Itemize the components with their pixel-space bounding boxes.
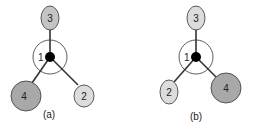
hub-label: 1 [38, 52, 44, 63]
node-2: 2 [160, 80, 178, 104]
hub-dot [191, 52, 201, 62]
node-4: 4 [211, 73, 241, 103]
edge-1-2 [50, 57, 78, 85]
svg-text:2: 2 [166, 87, 172, 98]
node-3: 3 [41, 6, 59, 30]
node-3: 3 [187, 6, 205, 30]
svg-text:3: 3 [47, 13, 53, 24]
svg-text:4: 4 [21, 91, 27, 102]
svg-text:2: 2 [81, 91, 87, 102]
panel-a: 1 3 4 2 (a) [11, 6, 94, 120]
svg-text:3: 3 [193, 13, 199, 24]
hub-label: 1 [184, 52, 190, 63]
node-4: 4 [11, 81, 41, 111]
panel-b: 1 3 2 4 (b) [160, 6, 241, 122]
svg-text:4: 4 [223, 83, 229, 94]
diagram-canvas: 1 3 4 2 (a) 1 3 2 4 [0, 0, 253, 127]
hub-dot [45, 52, 55, 62]
panel-label: (b) [190, 111, 202, 122]
panel-label: (a) [43, 109, 55, 120]
node-2: 2 [74, 85, 94, 107]
